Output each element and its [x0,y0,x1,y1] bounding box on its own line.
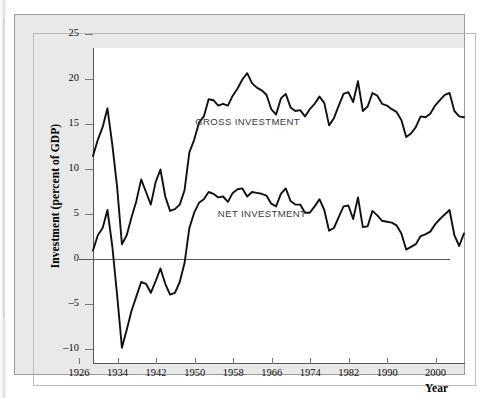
chart-panel: Investment (percent of GDP) 2520151050–5… [14,14,465,375]
y-tick [85,124,93,125]
x-tick-label: 2000 [413,367,459,378]
y-tick-label: –10 [45,342,79,353]
y-tick [85,79,93,80]
series-lines [93,48,464,363]
y-tick [85,349,93,350]
x-axis-line [93,363,465,364]
series-label-gross-investment: GROSS INVESTMENT [195,116,300,127]
x-axis-title: Year [425,382,448,394]
y-tick-label: 10 [45,162,79,173]
page-edge-line [3,18,4,318]
x-tick [79,358,80,364]
y-tick [85,304,93,305]
y-tick-label: –5 [45,297,79,308]
y-tick-label: 20 [45,72,79,83]
x-tick-label: 1990 [364,367,410,378]
y-tick [85,169,93,170]
figure-investment-percent-gdp: Investment (percent of GDP) 2520151050–5… [0,0,483,398]
y-tick-label: 0 [45,252,79,263]
y-axis-title: Investment (percent of GDP) [49,76,61,316]
series-label-net-investment: NET INVESTMENT [218,208,306,219]
y-tick-label: 15 [45,117,79,128]
y-tick [85,214,93,215]
y-tick [85,34,93,35]
y-tick-label: 25 [45,27,79,38]
page-edge-artifact [0,0,6,398]
y-tick-label: 5 [45,207,79,218]
